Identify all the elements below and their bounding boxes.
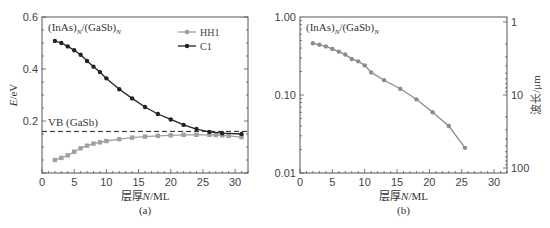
- data-point: [72, 149, 76, 153]
- x-tick-label: 5: [329, 176, 335, 188]
- data-point: [78, 53, 82, 57]
- data-point: [220, 131, 224, 135]
- data-point: [53, 39, 57, 43]
- data-point: [130, 96, 134, 100]
- x-tick-label: 15: [391, 176, 403, 188]
- data-point: [169, 133, 173, 137]
- data-point: [130, 135, 134, 139]
- data-point: [330, 47, 334, 51]
- data-point: [343, 52, 347, 56]
- chart-panel-b: 0510152025300.010.101.00110100(InAs)N/(G…: [275, 0, 550, 228]
- y-tick-label: 0.2: [23, 115, 38, 127]
- data-point: [337, 49, 341, 53]
- x-tick-label: 20: [423, 176, 435, 188]
- data-point: [362, 63, 366, 67]
- x-tick-label: 5: [71, 176, 77, 188]
- x-axis-label: 层厚N/ML: [121, 190, 170, 202]
- data-point: [91, 64, 95, 68]
- y-tick-label: 0.6: [23, 11, 38, 23]
- data-point: [369, 70, 373, 74]
- x-tick-label: 25: [197, 176, 209, 188]
- right-tick-label: 100: [511, 162, 529, 174]
- data-point: [214, 133, 218, 137]
- structure-annotation: (InAs)N/(GaSb)N: [306, 21, 379, 36]
- x-tick-label: 20: [165, 176, 177, 188]
- data-point: [72, 48, 76, 52]
- data-point: [207, 130, 211, 134]
- data-point: [430, 110, 434, 114]
- data-point: [181, 133, 185, 137]
- chart-panel-a: 0510152025300.20.40.6VB (GaSb)(InAs)N/(G…: [0, 0, 275, 228]
- data-point: [91, 141, 95, 145]
- panel-caption: (b): [397, 204, 410, 217]
- x-tick-label: 30: [229, 176, 241, 188]
- series-line-eg: [313, 43, 465, 148]
- chart-a-canvas: 0510152025300.20.40.6VB (GaSb)(InAs)N/(G…: [0, 0, 275, 228]
- data-point: [194, 133, 198, 137]
- data-point: [356, 59, 360, 63]
- data-point: [104, 76, 108, 80]
- x-tick-label: 10: [359, 176, 371, 188]
- data-point: [447, 124, 451, 128]
- data-point: [350, 57, 354, 61]
- panel-caption: (a): [139, 204, 152, 217]
- data-point: [194, 127, 198, 131]
- data-point: [117, 137, 121, 141]
- right-axis-label: 波长/μm: [530, 75, 542, 115]
- legend-label-c1: C1: [200, 41, 212, 52]
- data-point: [169, 117, 173, 121]
- y-tick-label: 0.01: [275, 167, 296, 179]
- data-point: [98, 140, 102, 144]
- data-point: [463, 146, 467, 150]
- data-point: [239, 132, 243, 136]
- data-point: [156, 134, 160, 138]
- data-point: [66, 44, 70, 48]
- data-point: [117, 87, 121, 91]
- data-point: [85, 144, 89, 148]
- legend-label-hh1: HH1: [200, 27, 219, 38]
- data-point: [398, 87, 402, 91]
- data-point: [59, 156, 63, 160]
- x-tick-label: 15: [132, 176, 144, 188]
- data-point: [143, 134, 147, 138]
- x-tick-label: 0: [297, 176, 303, 188]
- data-point: [53, 158, 57, 162]
- data-point: [104, 139, 108, 143]
- right-tick-label: 1: [511, 16, 517, 28]
- data-point: [226, 134, 230, 138]
- data-point: [66, 153, 70, 157]
- chart-b-canvas: 0510152025300.010.101.00110100(InAs)N/(G…: [275, 0, 550, 228]
- series-line-hh1: [55, 135, 242, 160]
- x-tick-label: 25: [456, 176, 468, 188]
- data-point: [317, 43, 321, 47]
- data-point: [78, 146, 82, 150]
- data-point: [85, 59, 89, 63]
- x-axis-label: 层厚N/ML: [379, 190, 428, 202]
- data-point: [59, 41, 63, 45]
- x-tick-label: 10: [100, 176, 112, 188]
- data-point: [181, 123, 185, 127]
- right-tick-label: 10: [511, 89, 523, 101]
- vb-label: VB (GaSb): [48, 116, 98, 129]
- plot-frame: [300, 17, 507, 173]
- data-point: [324, 44, 328, 48]
- data-point: [143, 105, 147, 109]
- data-point: [156, 112, 160, 116]
- data-point: [311, 41, 315, 45]
- y-tick-label: 0.4: [23, 63, 38, 75]
- x-tick-label: 30: [488, 176, 500, 188]
- y-tick-label: 0.10: [275, 89, 296, 101]
- data-point: [98, 70, 102, 74]
- data-point: [414, 97, 418, 101]
- legend: HH1C1: [178, 27, 219, 52]
- y-tick-label: 1.00: [275, 11, 296, 23]
- x-tick-label: 0: [39, 176, 45, 188]
- y-axis-label: E/eV: [7, 84, 19, 108]
- structure-annotation: (InAs)N/(GaSb)N: [48, 21, 121, 36]
- data-point: [382, 78, 386, 82]
